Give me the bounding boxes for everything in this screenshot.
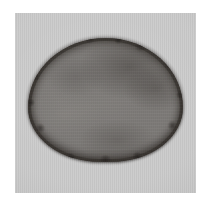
- specimen-body: [28, 38, 183, 162]
- specimen-interior-texture: [31, 41, 180, 159]
- micrograph-image-panel: [15, 13, 196, 193]
- micrograph-figure: [0, 0, 210, 207]
- specimen-grain-noise: [28, 38, 183, 162]
- specimen-rim-granularity: [28, 38, 183, 162]
- figure-caption: [0, 0, 1, 1]
- specimen-rim: [28, 38, 183, 162]
